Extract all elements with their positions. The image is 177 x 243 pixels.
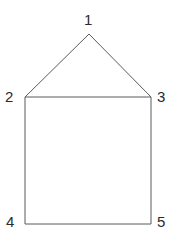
vertex-label-5: 5: [157, 214, 165, 229]
square-body-outline: [25, 97, 151, 224]
roof-outline: [25, 34, 151, 97]
vertex-label-3: 3: [157, 89, 165, 104]
vertex-label-1: 1: [84, 12, 92, 27]
house-polygon-diagram: [0, 0, 177, 243]
vertex-label-2: 2: [5, 89, 13, 104]
figure-canvas: 1 2 3 4 5: [0, 0, 177, 243]
vertex-label-4: 4: [6, 214, 14, 229]
